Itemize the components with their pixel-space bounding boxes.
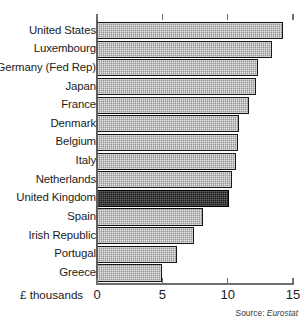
category-label: Greece — [59, 267, 96, 278]
x-tick-mark-top — [96, 14, 98, 20]
x-axis-line — [96, 283, 294, 285]
bar-row: Luxembourg — [0, 40, 308, 59]
category-label: Spain — [67, 211, 96, 222]
bar — [97, 246, 177, 263]
category-label: Denmark — [50, 118, 96, 129]
bar-row: Italy — [0, 152, 308, 171]
bar-row: France — [0, 96, 308, 115]
bar-row: Germany (Fed Rep) — [0, 59, 308, 78]
bar-row: Belgium — [0, 133, 308, 152]
bar-row: Denmark — [0, 115, 308, 134]
x-axis-title: £ thousands — [20, 289, 83, 301]
x-tick-mark — [162, 278, 164, 284]
bar — [97, 134, 238, 151]
source-note: Source: Eurostat — [236, 309, 298, 317]
bar — [97, 115, 239, 132]
x-tick-mark-top — [162, 14, 164, 20]
category-label: Italy — [76, 155, 96, 166]
x-tick-mark-top — [292, 14, 294, 20]
source-value: Eurostat — [267, 308, 298, 318]
bar — [97, 22, 283, 39]
bar-row: United States — [0, 21, 308, 40]
bar-highlighted — [97, 190, 229, 207]
x-tick-mark — [292, 278, 294, 284]
bar — [97, 227, 194, 244]
bar-row: Portugal — [0, 245, 308, 264]
x-tick-label: 0 — [93, 288, 100, 301]
x-tick-mark — [96, 278, 98, 284]
source-prefix: Source: — [236, 308, 265, 318]
bar-row: Irish Republic — [0, 226, 308, 245]
x-tick-mark — [227, 278, 229, 284]
bar — [97, 97, 249, 114]
category-label: Germany (Fed Rep) — [0, 62, 96, 73]
bar — [97, 41, 272, 58]
category-label: United Kingdom — [16, 193, 96, 204]
bar-chart: United StatesLuxembourgGermany (Fed Rep)… — [0, 0, 308, 330]
category-label: Japan — [65, 81, 96, 92]
category-label: Luxembourg — [34, 44, 96, 55]
plot-area: United StatesLuxembourgGermany (Fed Rep)… — [0, 0, 308, 300]
category-label: France — [61, 99, 96, 110]
bar-row: United Kingdom — [0, 189, 308, 208]
bar — [97, 78, 256, 95]
bar — [97, 264, 162, 281]
bar — [97, 171, 232, 188]
category-label: Belgium — [56, 137, 96, 148]
category-label: Irish Republic — [28, 230, 96, 241]
x-tick-label: 10 — [220, 288, 234, 301]
bar-row: Netherlands — [0, 171, 308, 190]
bar-row: Japan — [0, 77, 308, 96]
bar-row: Spain — [0, 208, 308, 227]
category-label: United States — [29, 25, 96, 36]
category-label: Netherlands — [36, 174, 96, 185]
bar — [97, 208, 203, 225]
x-tick-label: 5 — [159, 288, 166, 301]
y-axis-line — [96, 18, 98, 284]
bar-row: Greece — [0, 264, 308, 283]
x-tick-label: 15 — [286, 288, 300, 301]
x-tick-mark-top — [227, 14, 229, 20]
category-label: Portugal — [54, 249, 96, 260]
bar — [97, 59, 258, 76]
bar — [97, 153, 236, 170]
